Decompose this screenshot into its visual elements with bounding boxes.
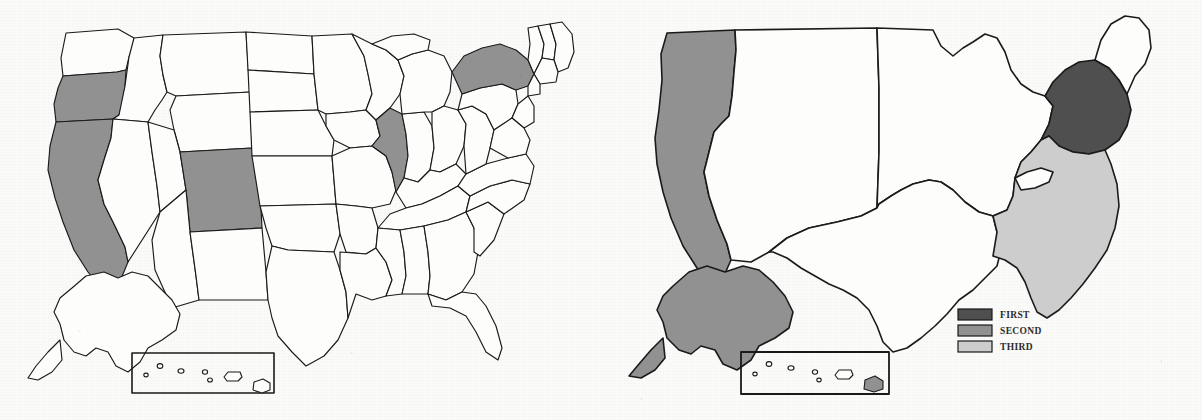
legend-item-first: FIRST xyxy=(958,309,1030,320)
hawaii-islands xyxy=(753,362,883,392)
state-co xyxy=(180,148,262,232)
state-mt xyxy=(160,32,250,96)
state-nm xyxy=(190,228,268,300)
scan-speck xyxy=(350,352,353,354)
state-wa xyxy=(61,29,134,76)
legend-item-second: SECOND xyxy=(958,325,1042,336)
state-ok xyxy=(260,204,340,252)
state-ak xyxy=(28,272,180,380)
region-level-map-panel: FIRST SECOND THIRD xyxy=(601,0,1202,420)
state-tx xyxy=(266,246,348,366)
scan-speck xyxy=(78,330,81,332)
legend-label-first: FIRST xyxy=(1000,310,1030,320)
legend-label-third: THIRD xyxy=(1000,342,1033,352)
state-ga xyxy=(424,212,478,300)
state-oh xyxy=(430,106,466,172)
state-wy xyxy=(170,92,252,152)
state-level-map-svg xyxy=(0,0,601,420)
legend-swatch-second xyxy=(958,325,992,336)
state-ks xyxy=(252,156,336,206)
hawaii-big-island xyxy=(864,376,883,392)
state-fl xyxy=(428,292,502,360)
state-level-map-panel xyxy=(0,0,601,420)
state-or xyxy=(54,70,126,122)
state-ar xyxy=(336,204,378,254)
region-level-map-svg: FIRST SECOND THIRD xyxy=(601,0,1202,420)
scan-speck xyxy=(520,74,522,76)
state-nd xyxy=(246,32,314,74)
state-ne xyxy=(250,110,334,156)
state-mi xyxy=(398,50,452,114)
legend-item-third: THIRD xyxy=(958,341,1033,352)
legend-swatch-third xyxy=(958,341,992,352)
scan-speck xyxy=(1160,360,1163,362)
hawaii-islands xyxy=(144,364,270,393)
legend-swatch-first xyxy=(958,309,992,320)
state-sd xyxy=(248,70,318,112)
legend-label-second: SECOND xyxy=(1000,326,1042,336)
rank-legend: FIRST SECOND THIRD xyxy=(958,309,1042,352)
scan-speck xyxy=(640,398,643,400)
figure-canvas: FIRST SECOND THIRD xyxy=(0,0,1202,420)
